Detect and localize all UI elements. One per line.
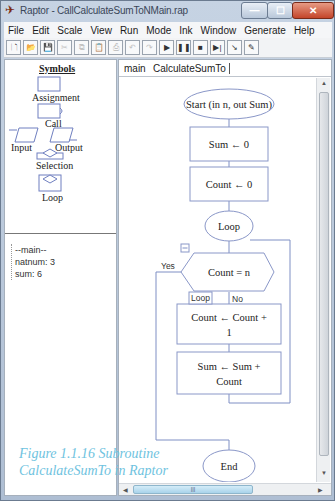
vertical-scroll-thumb[interactable] [319, 92, 329, 456]
variable-sum: sum: 6 [15, 268, 55, 280]
cut-button[interactable]: ✂ [57, 40, 72, 55]
print-button[interactable]: ⎙ [108, 40, 123, 55]
increment-count-node[interactable] [177, 304, 281, 344]
pen-icon: ✎ [248, 43, 255, 52]
accumulate-sum-label-1: Sum ← Sum + [198, 361, 261, 372]
assign-count-label: Count ← 0 [206, 179, 253, 190]
menu-ink[interactable]: Ink [175, 25, 196, 36]
loop-label: Loop [218, 221, 240, 232]
redo-button[interactable]: ↷ [142, 40, 157, 55]
step-button[interactable]: ▶| [210, 40, 225, 55]
loop-tag-label: Loop [191, 293, 210, 303]
scroll-down-icon[interactable]: ▼ [321, 470, 327, 476]
scroll-right-icon[interactable]: ▶ [318, 486, 323, 493]
stop-icon: ■ [198, 43, 203, 52]
copy-button[interactable]: ⧉ [74, 40, 89, 55]
symbol-input[interactable]: Input [11, 142, 32, 153]
close-button[interactable]: ✕ [292, 2, 334, 19]
paste-button[interactable]: 📋 [91, 40, 106, 55]
menu-bar: File Edit Scale View Run Mode Ink Window… [4, 22, 332, 38]
new-file-icon: 🗋 [11, 43, 17, 52]
pause-button[interactable]: ❚❚ [176, 40, 191, 55]
assign-sum-label: Sum ← 0 [209, 139, 249, 150]
print-icon: ⎙ [113, 43, 119, 52]
minimize-button[interactable]: — [241, 2, 268, 19]
menu-help[interactable]: Help [290, 25, 319, 36]
redo-icon: ↷ [146, 43, 153, 52]
variable-natnum: natnum: 3 [15, 256, 55, 268]
menu-file[interactable]: File [4, 25, 28, 36]
vertical-scrollbar[interactable]: ▲ ▼ [316, 78, 330, 482]
copy-icon: ⧉ [79, 43, 85, 52]
accumulate-sum-node[interactable] [177, 352, 281, 394]
symbol-call[interactable]: Call [45, 118, 62, 129]
title-bar[interactable]: ✈ Raptor - CallCalculateSumToNMain.rap —… [1, 1, 334, 21]
stop-button[interactable]: ■ [193, 40, 208, 55]
increment-count-label-2: 1 [226, 327, 231, 338]
flowchart-panel: main CalculateSumTo [118, 59, 332, 496]
symbol-selection[interactable]: Selection [36, 160, 73, 171]
symbols-panel: Symbols Assignment Call Input [4, 59, 117, 496]
undo-icon: ↶ [129, 43, 136, 52]
figure-caption: Figure 1.1.16 Subroutine CalculateSumTo … [19, 445, 168, 479]
symbols-box: Symbols Assignment Call Input [5, 60, 116, 234]
window-title: Raptor - CallCalculateSumToNMain.rap [20, 5, 188, 16]
horizontal-scrollbar[interactable]: ◀ ||| ▶ [119, 483, 331, 495]
assignment-symbol-icon[interactable] [38, 77, 60, 91]
no-label: No [232, 294, 243, 304]
tab-bar: main CalculateSumTo [119, 60, 331, 77]
variables-tree: --main-- natnum: 3 sum: 6 [11, 244, 55, 280]
toolbar: 🗋 📂 💾 ✂ ⧉ 📋 ⎙ ↶ ↷ ▶ ❚❚ ■ ▶| ↘ ✎ [4, 38, 332, 58]
raptor-app-icon: ✈ [5, 4, 17, 17]
undo-button[interactable]: ↶ [125, 40, 140, 55]
flowchart: Start (in n, out Sum) Sum ← 0 Count ← 0 … [119, 78, 315, 482]
menu-scale[interactable]: Scale [53, 25, 86, 36]
call-symbol-icon[interactable] [38, 104, 60, 118]
pen-button[interactable]: ✎ [244, 40, 259, 55]
input-symbol-icon[interactable] [15, 128, 38, 142]
tab-main[interactable]: main [124, 63, 146, 74]
accumulate-sum-label-2: Count [216, 376, 242, 387]
menu-window[interactable]: Window [197, 25, 241, 36]
menu-mode[interactable]: Mode [142, 25, 175, 36]
scroll-up-icon[interactable]: ▲ [321, 80, 327, 86]
menu-run[interactable]: Run [116, 25, 142, 36]
menu-edit[interactable]: Edit [28, 25, 53, 36]
condition-label: Count = n [208, 267, 251, 278]
save-icon: 💾 [43, 43, 53, 52]
flowchart-canvas[interactable]: Start (in n, out Sum) Sum ← 0 Count ← 0 … [119, 78, 315, 482]
start-label: Start (in n, out Sum) [186, 99, 273, 111]
end-label: End [221, 461, 239, 472]
menu-generate[interactable]: Generate [240, 25, 290, 36]
save-button[interactable]: 💾 [40, 40, 55, 55]
variable-scope: --main-- [15, 244, 55, 256]
scroll-left-icon[interactable]: ◀ [123, 486, 128, 493]
open-folder-icon: 📂 [26, 43, 36, 52]
yes-label: Yes [161, 261, 175, 271]
step-into-icon: ↘ [231, 43, 238, 52]
open-button[interactable]: 📂 [23, 40, 38, 55]
run-icon: ▶ [164, 43, 170, 52]
step-icon: ▶| [213, 43, 221, 52]
increment-count-label-1: Count ← Count + [191, 312, 267, 323]
symbol-output[interactable]: Output [55, 142, 83, 153]
menu-view[interactable]: View [86, 25, 116, 36]
new-file-button[interactable]: 🗋 [6, 40, 21, 55]
step-into-button[interactable]: ↘ [227, 40, 242, 55]
maximize-button[interactable]: ☐ [267, 2, 293, 19]
pause-icon: ❚❚ [177, 43, 191, 52]
cut-icon: ✂ [61, 43, 68, 52]
raptor-window: ✈ Raptor - CallCalculateSumToNMain.rap —… [0, 0, 335, 501]
run-button[interactable]: ▶ [159, 40, 174, 55]
tab-calculatesumto[interactable]: CalculateSumTo [153, 63, 230, 74]
horizontal-scroll-thumb[interactable]: ||| [133, 485, 253, 494]
symbol-assignment[interactable]: Assignment [32, 92, 80, 103]
symbol-loop[interactable]: Loop [42, 192, 63, 203]
paste-icon: 📋 [94, 43, 104, 52]
